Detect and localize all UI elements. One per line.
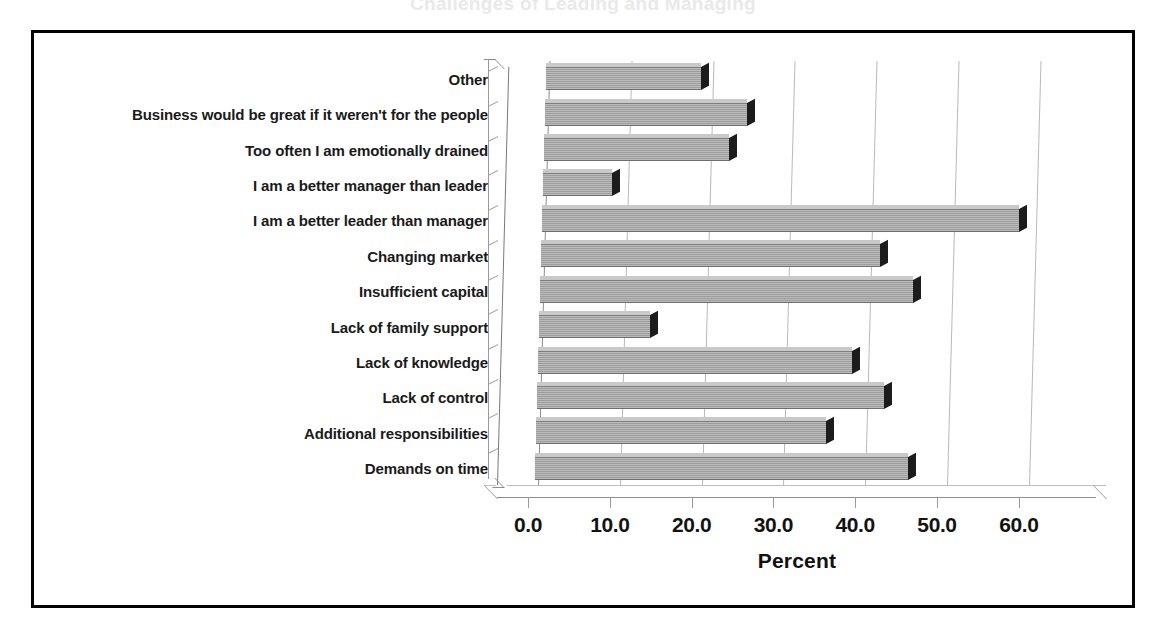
bar[interactable] [543,173,613,196]
x-axis-tick [855,497,856,508]
y-axis [488,59,510,489]
bar[interactable] [535,457,907,480]
bar[interactable] [541,244,880,267]
x-axis-tick-label: 20.0 [652,513,732,537]
bar[interactable] [536,421,826,444]
bar-end-cap [1019,205,1027,232]
x-axis-tick-label: 40.0 [815,513,895,537]
category-label: Too often I am emotionally drained [50,142,488,160]
x-axis-spine [497,497,1096,498]
y-axis-tick [488,205,498,211]
bar-series [497,61,1097,486]
bar-end-cap [612,169,620,196]
bar-end-cap [908,453,916,480]
bar-end-cap [826,417,834,444]
category-axis-labels: OtherBusiness would be great if it weren… [36,63,488,473]
x-axis-tick-label: 30.0 [733,513,813,537]
x-axis-tick [773,497,774,508]
x-axis-tick [937,497,938,508]
x-axis-tick-label: 10.0 [570,513,650,537]
y-axis-tick [488,448,498,454]
category-label: Additional responsibilities [50,425,488,443]
x-axis-tick [1019,497,1020,508]
bar[interactable] [538,351,852,374]
x-axis-cap-left [483,485,509,499]
y-axis-tick [488,240,498,246]
bar-end-cap [650,311,658,338]
bar-end-cap [884,382,892,409]
bar-end-cap [880,240,888,267]
bar[interactable] [546,67,701,90]
category-label: Lack of family support [50,319,488,337]
bar-end-cap [701,63,709,90]
y-axis-tick [488,309,498,315]
y-axis-tick [488,101,498,107]
y-axis-tick [488,413,498,419]
x-axis-title: Percent [497,549,1097,573]
bar[interactable] [540,280,913,303]
category-label: I am a better manager than leader [50,177,488,195]
bar-end-cap [747,98,755,125]
plot-wrapper: OtherBusiness would be great if it weren… [34,33,1132,605]
category-label: Lack of knowledge [50,354,488,372]
bar[interactable] [539,315,650,338]
x-axis-tick [610,497,611,508]
x-axis-tick [528,497,529,508]
bar-end-cap [913,275,921,302]
bar[interactable] [544,138,729,161]
x-axis-spine-back [507,485,1106,486]
y-axis-tick [488,379,498,385]
category-label: Lack of control [50,389,488,407]
y-axis-tick [488,344,498,350]
bar[interactable] [542,209,1019,232]
y-axis-tick [488,275,498,281]
category-label: Changing market [50,248,488,266]
cut-off-title-remnant: Challenges of Leading and Managing [0,0,1166,26]
bar[interactable] [537,386,884,409]
x-axis-tick-label: 60.0 [979,513,1059,537]
bar-end-cap [852,346,860,373]
y-axis-tick [488,171,498,177]
category-label: Other [50,71,488,89]
chart-frame: OtherBusiness would be great if it weren… [31,30,1135,608]
category-label: I am a better leader than manager [50,212,488,230]
y-axis-spine [497,67,509,485]
plot-area [497,61,1097,486]
x-axis-tick-label: 0.0 [488,513,568,537]
bar-end-cap [729,134,737,161]
category-label: Demands on time [50,460,488,478]
y-axis-spine-back [488,59,489,479]
bar[interactable] [545,103,747,126]
category-label: Insufficient capital [50,283,488,301]
x-axis-tick [692,497,693,508]
x-axis-tick-label: 50.0 [897,513,977,537]
category-label: Business would be great if it weren't fo… [50,106,488,124]
y-axis-tick [488,67,498,73]
x-axis: 0.010.020.030.040.050.060.0 [497,485,1107,501]
y-axis-tick [488,136,498,142]
